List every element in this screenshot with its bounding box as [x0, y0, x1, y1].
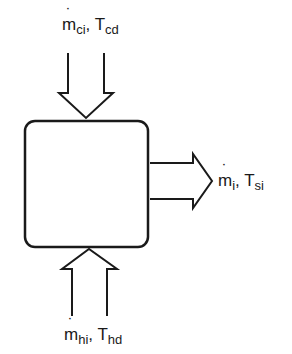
temperature-symbol: T [95, 15, 105, 34]
mass-flow-symbol: m [218, 172, 232, 189]
right-outlet-label: mi, Tsi [218, 172, 264, 189]
temperature-symbol: T [244, 171, 254, 190]
control-volume-box [25, 121, 148, 247]
flow-diagram: mci, Tcd mi, Tsi mhi, Thd [0, 0, 292, 354]
mass-flow-symbol: m [62, 16, 76, 33]
top-inlet-arrow [59, 53, 113, 118]
top-inlet-label: mci, Tcd [62, 16, 119, 33]
temperature-symbol: T [97, 325, 107, 344]
mass-flow-symbol: m [64, 326, 78, 343]
bottom-inlet-label: mhi, Thd [64, 326, 122, 343]
bottom-inlet-arrow [62, 249, 117, 316]
right-outlet-arrow [150, 154, 212, 208]
